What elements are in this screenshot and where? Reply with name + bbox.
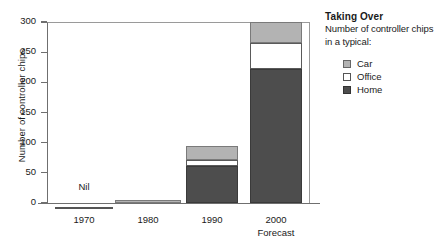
- y-tick-mark: [41, 21, 47, 22]
- y-tick-mark: [41, 172, 47, 173]
- chart-container: Number of controller chips 0501001502002…: [0, 0, 446, 244]
- bar-segment-2000-car: [250, 22, 302, 43]
- bar-1980: [115, 200, 181, 203]
- legend-title: Taking Over: [325, 10, 443, 23]
- legend-label-office: Office: [357, 71, 382, 82]
- y-tick-label: 50: [6, 166, 36, 177]
- bar-segment-1990-car: [186, 146, 238, 160]
- y-tick-mark: [41, 112, 47, 113]
- y-tick-label: 0: [6, 196, 36, 207]
- x-axis-line: [38, 203, 320, 204]
- bar-segment-2000-office: [250, 43, 302, 69]
- y-tick-label: 200: [6, 75, 36, 86]
- y-tick-label: 300: [6, 15, 36, 26]
- legend-subtitle-line-2: in a typical:: [325, 36, 443, 49]
- y-tick-mark: [41, 142, 47, 143]
- y-tick-mark: [41, 202, 47, 203]
- legend-item-list: CarOfficeHome: [343, 57, 443, 96]
- nil-underline: [55, 207, 113, 209]
- legend-item-office: Office: [343, 70, 443, 83]
- legend-label-car: Car: [357, 58, 372, 69]
- legend-item-home: Home: [343, 83, 443, 96]
- y-tick-mark: [41, 82, 47, 83]
- y-tick-label: 250: [6, 45, 36, 56]
- bar-segment-2000-home: [250, 69, 302, 203]
- x-axis-label-2000: 2000: [236, 214, 316, 225]
- y-tick-label: 100: [6, 136, 36, 147]
- legend-swatch-car: [343, 60, 351, 68]
- nil-annotation: Nil: [54, 181, 114, 192]
- bar-1990: [186, 146, 238, 203]
- bar-segment-1990-home: [186, 166, 238, 203]
- y-tick-mark: [41, 52, 47, 53]
- legend-subtitle-line-1: Number of controller chips: [325, 23, 443, 36]
- legend: Taking Over Number of controller chips i…: [325, 10, 443, 96]
- bar-2000: [250, 22, 302, 203]
- legend-item-car: Car: [343, 57, 443, 70]
- legend-swatch-office: [343, 73, 351, 81]
- legend-label-home: Home: [357, 84, 382, 95]
- bar-segment-1980-car: [115, 200, 181, 203]
- x-axis-sublabel-2000: Forecast: [236, 227, 316, 238]
- y-tick-label: 150: [6, 106, 36, 117]
- bar-segment-1990-office: [186, 160, 238, 165]
- legend-swatch-home: [343, 86, 351, 94]
